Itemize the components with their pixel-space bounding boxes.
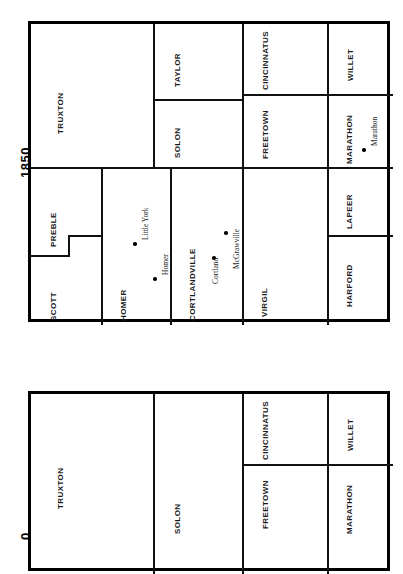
township-label-cincinnatus-2: CINCINNATUS bbox=[261, 401, 270, 460]
township-label-marathon: MARATHON bbox=[345, 115, 354, 164]
township-cell-freetown-2: FREETOWN bbox=[244, 466, 329, 574]
township-label-freetown: FREETOWN bbox=[261, 110, 270, 159]
township-cell-harford: HARFORD bbox=[329, 237, 393, 325]
township-label-truxton-2: TRUXTON bbox=[56, 468, 65, 509]
township-cell-lapeer: LAPEER bbox=[329, 169, 393, 237]
township-cell-taylor: TAYLOR bbox=[155, 24, 244, 101]
township-label-cincinnatus: CINCINNATUS bbox=[261, 31, 270, 90]
township-cell-solon: SOLON bbox=[155, 101, 244, 169]
place-dot-mcgrawville bbox=[224, 231, 228, 235]
township-cell-virgil: VIRGIL bbox=[244, 169, 329, 325]
township-cell-willet: WILLET bbox=[329, 24, 393, 96]
township-label-willet-2: WILLET bbox=[346, 419, 355, 451]
township-cell-scott-preble-column: PREBLE SCOTT bbox=[31, 169, 103, 325]
township-label-lapeer: LAPEER bbox=[345, 194, 354, 229]
township-label-harford: HARFORD bbox=[345, 264, 354, 307]
township-cell-truxton-2: TRUXTON bbox=[31, 394, 155, 574]
place-dot-homer bbox=[153, 277, 157, 281]
township-label-virgil: VIRGIL bbox=[260, 288, 269, 317]
place-label-marathon: Marathon bbox=[370, 117, 379, 146]
place-dot-little-york bbox=[133, 242, 137, 246]
township-cell-marathon: MARATHON Marathon bbox=[329, 96, 393, 169]
township-label-freetown-2: FREETOWN bbox=[261, 480, 270, 529]
township-cell-marathon-2: MARATHON bbox=[329, 466, 393, 574]
township-cell-cincinnatus-2: CINCINNATUS bbox=[244, 394, 329, 466]
township-cell-truxton: TRUXTON bbox=[31, 24, 155, 169]
township-label-taylor: TAYLOR bbox=[173, 53, 182, 87]
township-cell-cortlandville: CORTLANDVILLE Cortland McGrawville bbox=[172, 169, 244, 325]
map2-cortland-county-later: TRUXTON SOLON CINCINNATUS FREETOWN WILLE… bbox=[28, 391, 390, 571]
place-label-mcgrawville: McGrawville bbox=[232, 229, 241, 269]
township-cell-cincinnatus: CINCINNATUS bbox=[244, 24, 329, 96]
township-cell-freetown: FREETOWN bbox=[244, 96, 329, 169]
township-label-marathon-2: MARATHON bbox=[345, 485, 354, 534]
place-dot-marathon bbox=[362, 148, 366, 152]
place-label-homer: Homer bbox=[161, 254, 170, 275]
township-cell-homer: HOMER Little York Homer bbox=[103, 169, 172, 325]
township-cell-willet-2: WILLET bbox=[329, 394, 393, 466]
township-label-willet: WILLET bbox=[346, 49, 355, 81]
scott-preble-stepped-boundary bbox=[31, 169, 103, 325]
place-label-cortland: Cortland bbox=[211, 258, 220, 284]
township-label-cortlandville: CORTLANDVILLE bbox=[188, 248, 197, 321]
township-label-solon: SOLON bbox=[173, 128, 182, 158]
map1-cortland-county-1850: TRUXTON TAYLOR SOLON CINCINNATUS FREETOW… bbox=[28, 21, 390, 322]
township-label-solon-2: SOLON bbox=[173, 504, 182, 534]
place-label-little-york: Little York bbox=[141, 207, 150, 240]
township-label-truxton: TRUXTON bbox=[56, 93, 65, 134]
township-cell-solon-2: SOLON bbox=[155, 394, 244, 574]
township-label-homer: HOMER bbox=[119, 289, 128, 321]
